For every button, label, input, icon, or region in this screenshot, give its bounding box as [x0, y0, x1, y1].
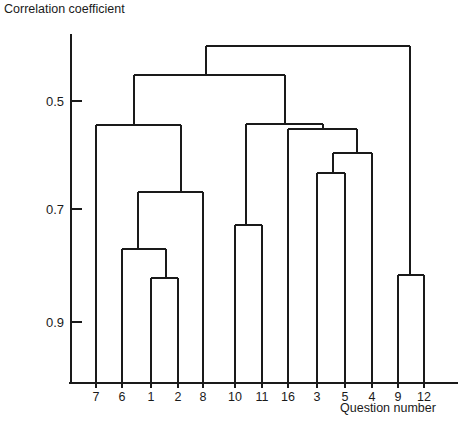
- leaf-label-1: 1: [148, 390, 155, 404]
- x-axis-title: Question number: [340, 401, 436, 415]
- leaf-label-16: 16: [281, 390, 295, 404]
- dendrogram-svg: 0.50.70.976128101116354912: [0, 0, 469, 433]
- y-axis-title: Correlation coefficient: [4, 2, 125, 16]
- leaf-label-8: 8: [200, 390, 207, 404]
- y-tick-label-2: 0.9: [46, 315, 64, 330]
- dendrogram-chart: 0.50.70.976128101116354912 Correlation c…: [0, 0, 469, 433]
- leaf-label-7: 7: [93, 390, 100, 404]
- leaf-label-11: 11: [256, 390, 269, 404]
- leaf-label-6: 6: [119, 390, 126, 404]
- leaf-label-2: 2: [175, 390, 182, 404]
- leaf-label-10: 10: [228, 390, 242, 404]
- y-tick-label-1: 0.7: [46, 202, 64, 217]
- y-tick-label-0: 0.5: [46, 94, 64, 109]
- leaf-label-3: 3: [314, 390, 321, 404]
